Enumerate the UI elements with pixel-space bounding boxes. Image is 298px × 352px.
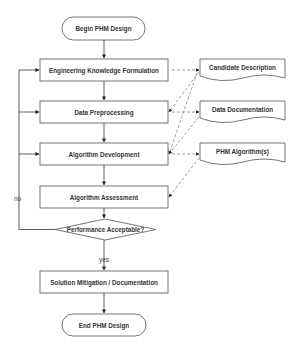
doc-candidate-description: Candidate Description bbox=[200, 59, 285, 75]
algorithm-development-box: Algorithm Development bbox=[40, 143, 168, 165]
solution-mitigation-box: Solution Mitigation / Documentation bbox=[40, 271, 168, 293]
doc-data-documentation: Data Documentation bbox=[200, 101, 285, 117]
engineering-knowledge-box: Engineering Knowledge Formulation bbox=[40, 59, 168, 81]
performance-decision: Performance Acceptable? bbox=[55, 220, 156, 239]
end-terminator: End PHM Design bbox=[62, 314, 146, 336]
algorithm-assessment-box: Algorithm Assessment bbox=[40, 186, 168, 208]
flowchart-canvas bbox=[0, 0, 298, 352]
begin-terminator: Begin PHM Design bbox=[62, 17, 145, 40]
doc-phm-algorithms: PHM Algorithm(s) bbox=[200, 143, 285, 159]
edge-label-no: no bbox=[14, 195, 21, 202]
edge-label-yes: yes bbox=[99, 256, 109, 263]
data-preprocessing-box: Data Preprocessing bbox=[40, 101, 168, 123]
